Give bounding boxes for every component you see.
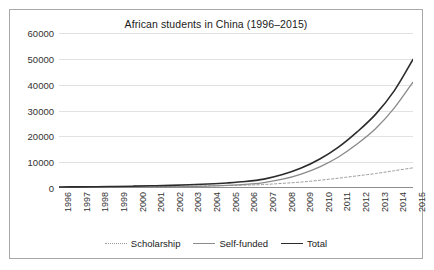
x-axis-tick-label: 1997 [82,192,92,212]
x-axis-tick-label: 2001 [156,192,166,212]
series-line-self-funded [59,82,413,188]
y-axis-tick-label: 10000 [28,157,54,168]
chart-legend: ScholarshipSelf-fundedTotal [10,238,422,249]
x-axis-tick-label: 2007 [268,192,278,212]
x-axis-tick-label: 1999 [119,192,129,212]
legend-swatch-icon [193,243,215,244]
x-axis-tick-label: 2005 [231,192,241,212]
legend-label: Total [307,238,327,249]
legend-item-self-funded[interactable]: Self-funded [193,238,268,249]
y-axis-tick-label: 0 [49,183,54,194]
x-axis-tick-label: 2008 [287,192,297,212]
y-axis-tick-label: 30000 [28,105,54,116]
legend-label: Self-funded [219,238,268,249]
legend-swatch-icon [281,243,303,244]
x-axis-tick-label: 2003 [193,192,203,212]
legend-swatch-icon [105,243,127,244]
x-axis-tick-label: 1998 [100,192,110,212]
legend-item-scholarship[interactable]: Scholarship [105,238,181,249]
x-axis-tick-label: 2004 [212,192,222,212]
legend-item-total[interactable]: Total [281,238,327,249]
x-axis-tick-label: 2002 [175,192,185,212]
plot-area: 6000050000400003000020000100000 19961997… [59,33,413,188]
x-axis-tick-label: 2006 [249,192,259,212]
series-line-total [59,59,413,187]
y-axis-tick-label: 60000 [28,28,54,39]
x-axis-tick-label: 2009 [305,192,315,212]
y-axis-tick-label: 20000 [28,131,54,142]
x-axis-tick-label: 1996 [63,192,73,212]
x-axis-tick-label: 2000 [138,192,148,212]
x-axis-tick-label: 2011 [342,192,352,211]
x-axis-tick-label: 2012 [361,192,371,212]
y-axis-tick-label: 50000 [28,53,54,64]
y-axis-tick-label: 40000 [28,79,54,90]
chart-title: African students in China (1996–2015) [10,18,422,30]
x-axis-tick-label: 2013 [380,192,390,212]
chart-container: African students in China (1996–2015) 60… [9,9,423,259]
series-lines [59,33,413,188]
x-axis-tick-label: 2010 [324,192,334,212]
legend-label: Scholarship [131,238,181,249]
x-axis-tick-label: 2014 [398,192,408,212]
x-axis-tick-label: 2015 [417,192,427,212]
